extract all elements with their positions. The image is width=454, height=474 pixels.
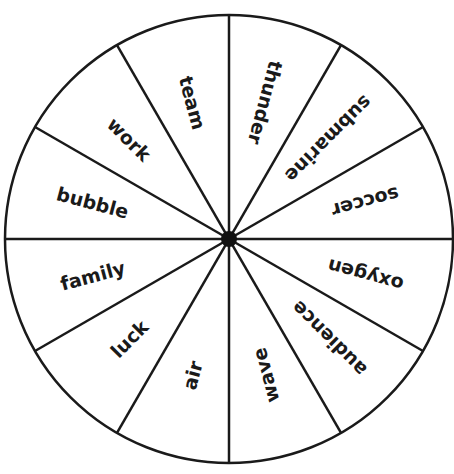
word-wheel: thundersubmarinesocceroxygenaudiencewave…: [0, 0, 454, 474]
wheel-hub: [221, 231, 237, 247]
